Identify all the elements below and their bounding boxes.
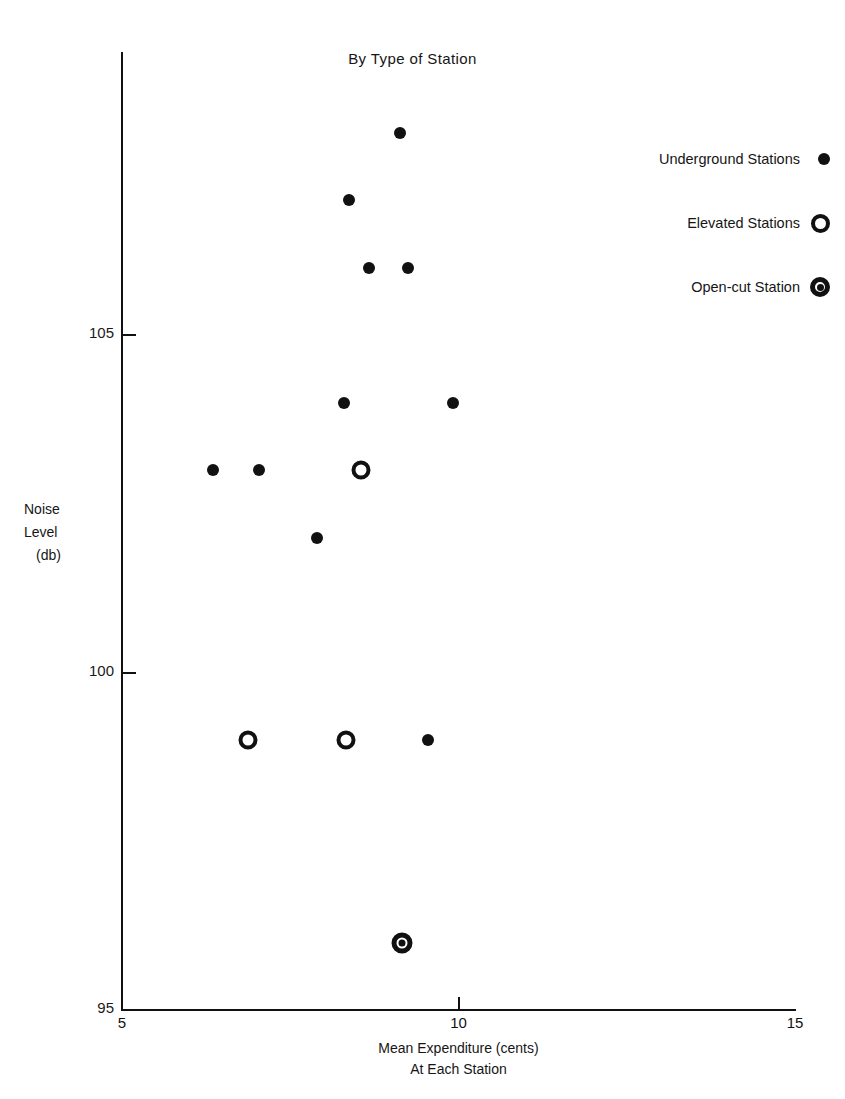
y-axis-title-line2: Level [24, 521, 116, 544]
x-axis-title: Mean Expenditure (cents) At Each Station [121, 1038, 796, 1080]
data-point-filled-circle [394, 127, 406, 139]
legend-marker-wrap-0 [800, 153, 830, 165]
x-axis-title-line2: At Each Station [121, 1059, 796, 1080]
data-point-open-circle [337, 731, 356, 750]
y-axis-line [121, 52, 123, 1010]
data-point-filled-circle [338, 397, 350, 409]
data-point-filled-circle [402, 262, 414, 274]
legend-label-0: Underground Stations [659, 151, 800, 167]
legend-open-circle-icon [811, 214, 830, 233]
legend-label-1: Elevated Stations [687, 215, 800, 231]
data-point-filled-circle [363, 262, 375, 274]
scatter-plot-figure: By Type of Station Noise Level (db) Mean… [0, 0, 845, 1099]
chart-legend: Underground StationsElevated StationsOpe… [600, 146, 830, 338]
data-point-open-circle [351, 461, 370, 480]
y-tick-100 [123, 672, 136, 674]
data-point-filled-circle [253, 464, 265, 476]
data-point-filled-circle [207, 464, 219, 476]
legend-filled-circle-icon [818, 153, 830, 165]
chart-title: By Type of Station [0, 50, 845, 67]
legend-marker-wrap-1 [800, 214, 830, 233]
legend-label-2: Open-cut Station [691, 279, 800, 295]
x-tick-label-5: 5 [92, 1014, 152, 1031]
data-point-filled-circle [447, 397, 459, 409]
y-tick-95 [123, 1009, 136, 1011]
data-point-open-circle [238, 731, 257, 750]
x-tick-label-15: 15 [765, 1014, 825, 1031]
y-tick-label-100: 100 [26, 662, 114, 679]
legend-marker-wrap-2 [800, 277, 830, 297]
y-axis-title-units: (db) [24, 544, 116, 567]
data-point-filled-circle [311, 532, 323, 544]
legend-item-1: Elevated Stations [600, 210, 830, 236]
legend-item-0: Underground Stations [600, 146, 830, 172]
data-point-filled-circle [343, 194, 355, 206]
y-axis-title: Noise Level (db) [24, 498, 116, 567]
y-axis-title-line1: Noise [24, 498, 116, 521]
y-tick-label-105: 105 [26, 324, 114, 341]
data-point-bullseye-circle [391, 932, 412, 953]
data-point-filled-circle [422, 734, 434, 746]
x-tick-label-10: 10 [429, 1014, 489, 1031]
legend-item-2: Open-cut Station [600, 274, 830, 300]
x-axis-title-line1: Mean Expenditure (cents) [121, 1038, 796, 1059]
x-tick-10 [458, 997, 460, 1010]
legend-bullseye-circle-icon [810, 277, 830, 297]
y-tick-105 [123, 334, 136, 336]
